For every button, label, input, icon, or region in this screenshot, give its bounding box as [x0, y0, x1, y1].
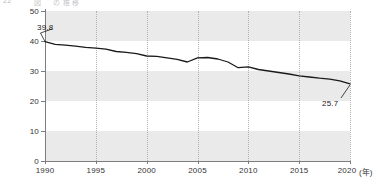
y-label-50: 50	[5, 7, 39, 16]
x-tick-1990	[45, 161, 46, 164]
y-axis-line	[45, 9, 46, 163]
x-label-2020: 2020	[334, 166, 360, 175]
y-label-20: 20	[5, 97, 39, 106]
y-tick-30	[41, 71, 45, 72]
gridline-1995	[96, 11, 97, 161]
end-value-label: 25.7	[322, 99, 338, 108]
x-tick-2020	[350, 161, 351, 164]
y-tick-50	[41, 11, 45, 12]
chart-root: 22 図 の 推 移 50 40 30 20 10 0	[0, 0, 379, 184]
y-tick-40	[41, 41, 45, 42]
header-title: 図 の 推 移	[34, 0, 79, 7]
x-tick-1995	[96, 161, 97, 164]
x-tick-2010	[248, 161, 249, 164]
y-label-30: 30	[5, 67, 39, 76]
gridline-2005	[198, 11, 199, 161]
y-label-40: 40	[5, 37, 39, 46]
x-label-2005: 2005	[185, 166, 211, 175]
gridline-2010	[248, 11, 249, 161]
y-label-0: 0	[5, 157, 39, 166]
x-label-2010: 2010	[235, 166, 261, 175]
header-number: 22	[3, 0, 11, 4]
x-label-2000: 2000	[134, 166, 160, 175]
x-tick-2005	[198, 161, 199, 164]
x-axis-unit: (年)	[359, 166, 372, 177]
x-label-2015: 2015	[286, 166, 312, 175]
clipped-header: 22 図 の 推 移	[0, 0, 379, 7]
x-label-1995: 1995	[83, 166, 109, 175]
x-tick-2015	[299, 161, 300, 164]
plot-area	[45, 11, 350, 161]
y-label-10: 10	[5, 127, 39, 136]
start-value-label: 39.8	[37, 23, 53, 32]
gridline-2020	[350, 11, 351, 161]
y-tick-20	[41, 101, 45, 102]
gridline-2015	[299, 11, 300, 161]
y-tick-10	[41, 131, 45, 132]
gridline-2000	[147, 11, 148, 161]
x-tick-2000	[147, 161, 148, 164]
x-label-1990: 1990	[32, 166, 58, 175]
